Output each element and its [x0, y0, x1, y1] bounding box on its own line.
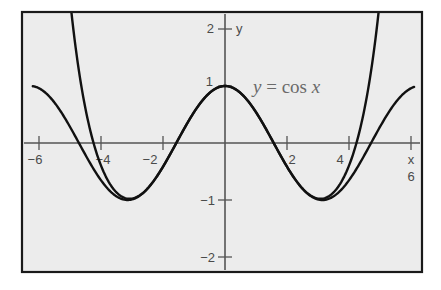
annotation-rest: = cos: [266, 76, 312, 97]
x-tick-label-neg2: −2: [143, 152, 158, 167]
y-axis-label: y: [236, 21, 243, 36]
x-axis-label: x: [408, 152, 415, 167]
y-tick-label-neg1: −1: [200, 193, 215, 208]
annotation-y: y: [251, 76, 262, 97]
y-tick-label-2: 2: [207, 21, 214, 36]
y-tick-label-1: 1: [206, 74, 213, 89]
curve-annotation: y = cos x: [251, 76, 321, 97]
annotation-x: x: [311, 76, 321, 97]
x-tick-label-neg6: −6: [28, 152, 43, 167]
x-tick-label-2: 2: [288, 152, 295, 167]
y-tick-label-neg2: −2: [200, 250, 215, 265]
x-tick-label-4: 4: [336, 152, 343, 167]
plot-frame: [22, 12, 422, 272]
x-tick-label-6: 6: [407, 169, 414, 184]
cosine-chart: −6 −4 −2 2 4 x 6 2 y 1 −1 −2 y = cos x: [0, 0, 441, 290]
